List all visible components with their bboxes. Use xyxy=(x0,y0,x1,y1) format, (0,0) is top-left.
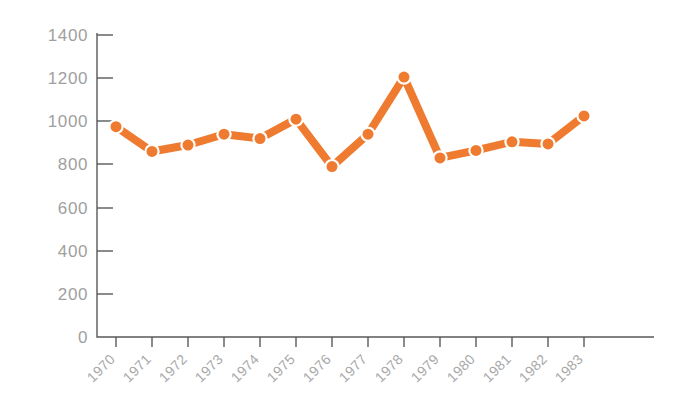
series-markers-group xyxy=(108,69,591,174)
y-axis-ticks xyxy=(97,35,113,294)
y-tick-label-1000: 1000 xyxy=(48,112,88,131)
x-tick-label-1973: 1973 xyxy=(192,351,226,385)
x-tick-label-1977: 1977 xyxy=(336,351,370,385)
x-axis-tick-labels: 1970 1971 1972 1973 1974 1975 1976 1977 … xyxy=(84,351,586,385)
x-tick-label-1981: 1981 xyxy=(480,351,514,385)
x-tick-label-1979: 1979 xyxy=(408,351,442,385)
y-tick-label-1400: 1400 xyxy=(48,26,88,45)
data-point-marker-1983[interactable] xyxy=(579,110,590,121)
data-point-marker-1976[interactable] xyxy=(327,161,338,172)
y-axis-tick-labels: 1400 1200 1000 800 600 400 200 0 xyxy=(48,26,88,347)
data-point-marker-1982[interactable] xyxy=(543,138,554,149)
x-tick-label-1978: 1978 xyxy=(372,351,406,385)
data-point-marker-1975[interactable] xyxy=(291,114,302,125)
y-tick-label-1200: 1200 xyxy=(48,69,88,88)
data-point-marker-1981[interactable] xyxy=(507,136,518,147)
data-point-marker-1973[interactable] xyxy=(219,129,230,140)
y-tick-label-600: 600 xyxy=(58,199,88,218)
x-tick-label-1980: 1980 xyxy=(444,351,478,385)
x-tick-label-1976: 1976 xyxy=(300,351,334,385)
y-tick-label-0: 0 xyxy=(78,328,88,347)
data-point-marker-1972[interactable] xyxy=(183,140,194,151)
y-tick-label-800: 800 xyxy=(58,155,88,174)
x-tick-label-1974: 1974 xyxy=(228,351,262,385)
data-point-marker-1971[interactable] xyxy=(147,146,158,157)
y-tick-label-200: 200 xyxy=(58,285,88,304)
y-tick-label-400: 400 xyxy=(58,242,88,261)
x-tick-label-1975: 1975 xyxy=(264,351,298,385)
x-tick-label-1983: 1983 xyxy=(552,351,586,385)
data-point-marker-1970[interactable] xyxy=(111,121,122,132)
x-tick-label-1972: 1972 xyxy=(156,351,190,385)
x-tick-label-1971: 1971 xyxy=(120,351,154,385)
data-point-marker-1978[interactable] xyxy=(399,72,410,83)
x-tick-label-1982: 1982 xyxy=(516,351,550,385)
x-axis-ticks xyxy=(116,337,584,347)
axis-lines xyxy=(97,33,654,337)
data-point-marker-1974[interactable] xyxy=(255,133,266,144)
data-point-marker-1977[interactable] xyxy=(363,129,374,140)
data-series-group xyxy=(108,69,591,174)
line-chart-figure: 1400 1200 1000 800 600 400 200 0 xyxy=(0,0,689,396)
x-tick-label-1970: 1970 xyxy=(84,351,118,385)
data-point-marker-1980[interactable] xyxy=(471,145,482,156)
series-line-path xyxy=(116,77,584,167)
chart-canvas: 1400 1200 1000 800 600 400 200 0 xyxy=(0,0,689,396)
data-point-marker-1979[interactable] xyxy=(435,152,446,163)
